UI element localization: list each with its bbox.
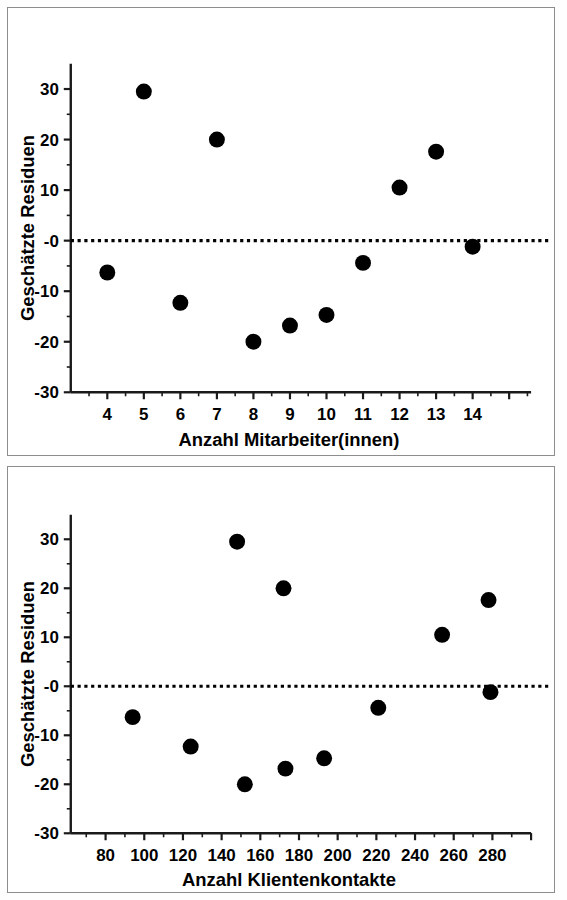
data-point — [370, 700, 386, 716]
data-point — [172, 295, 188, 311]
x-tick-label: 180 — [285, 846, 313, 865]
data-point — [481, 592, 497, 608]
x-tick-label: 120 — [169, 846, 197, 865]
x-tick-label: 160 — [246, 846, 274, 865]
x-tick-label: 12 — [390, 405, 409, 424]
y-tick-label: -30 — [34, 824, 58, 843]
x-tick-label: 8 — [249, 405, 258, 424]
x-axis-title: Anzahl Klientenkontakte — [182, 869, 396, 890]
data-point — [428, 144, 444, 160]
data-point — [209, 132, 225, 148]
data-point — [237, 776, 253, 792]
data-point — [125, 709, 141, 725]
data-point — [355, 255, 371, 271]
y-tick-label: -10 — [34, 282, 58, 301]
data-point — [282, 318, 298, 334]
data-point — [276, 580, 292, 596]
data-point — [99, 265, 115, 281]
data-point — [229, 534, 245, 550]
scatter-svg-top: 302010-0-10-20-304567891011121314Anzahl … — [8, 8, 554, 455]
data-point — [183, 739, 199, 755]
scatter-svg-bottom: 302010-0-10-20-3080100120140160180200220… — [8, 467, 554, 892]
data-point — [277, 761, 293, 777]
y-tick-label: 30 — [40, 530, 59, 549]
y-axis-title: Geschätzte Residuen — [17, 135, 38, 321]
chart-panel-top: 302010-0-10-20-304567891011121314Anzahl … — [7, 7, 555, 456]
x-tick-label: 14 — [463, 405, 482, 424]
x-tick-label: 13 — [427, 405, 446, 424]
figure-page: 302010-0-10-20-304567891011121314Anzahl … — [0, 0, 567, 900]
data-point — [465, 239, 481, 255]
y-tick-label: 20 — [40, 579, 59, 598]
x-tick-label: 9 — [285, 405, 294, 424]
x-tick-label: 280 — [478, 846, 506, 865]
x-tick-label: 6 — [176, 405, 185, 424]
y-tick-label: 10 — [40, 628, 59, 647]
y-tick-label: 10 — [40, 181, 59, 200]
x-tick-label: 80 — [96, 846, 115, 865]
y-tick-label: -10 — [34, 726, 58, 745]
y-axis-title: Geschätzte Residuen — [17, 581, 38, 767]
x-tick-label: 10 — [317, 405, 336, 424]
y-tick-label: -20 — [34, 775, 58, 794]
y-tick-label: 30 — [40, 80, 59, 99]
y-tick-label: -0 — [44, 232, 59, 251]
x-tick-label: 240 — [401, 846, 429, 865]
x-tick-label: 140 — [208, 846, 236, 865]
x-tick-label: 5 — [139, 405, 148, 424]
data-point — [245, 334, 261, 350]
x-tick-label: 260 — [440, 846, 468, 865]
scatter-plot-mitarbeiter: 302010-0-10-20-304567891011121314Anzahl … — [8, 8, 554, 455]
chart-panel-bottom: 302010-0-10-20-3080100120140160180200220… — [7, 466, 555, 893]
data-point — [434, 627, 450, 643]
data-point — [136, 84, 152, 100]
scatter-plot-klientenkontakte: 302010-0-10-20-3080100120140160180200220… — [8, 467, 554, 892]
x-tick-label: 100 — [130, 846, 158, 865]
x-tick-label: 4 — [103, 405, 113, 424]
y-tick-label: -0 — [44, 677, 59, 696]
y-tick-label: -20 — [34, 333, 58, 352]
y-tick-label: -30 — [34, 383, 58, 402]
y-tick-label: 20 — [40, 131, 59, 150]
x-tick-label: 7 — [212, 405, 221, 424]
x-tick-label: 11 — [354, 405, 372, 424]
data-point — [319, 307, 335, 323]
data-point — [316, 750, 332, 766]
data-point — [392, 180, 408, 196]
x-axis-title: Anzahl Mitarbeiter(innen) — [178, 429, 399, 450]
x-tick-label: 220 — [362, 846, 390, 865]
data-point — [482, 684, 498, 700]
x-tick-label: 200 — [324, 846, 352, 865]
